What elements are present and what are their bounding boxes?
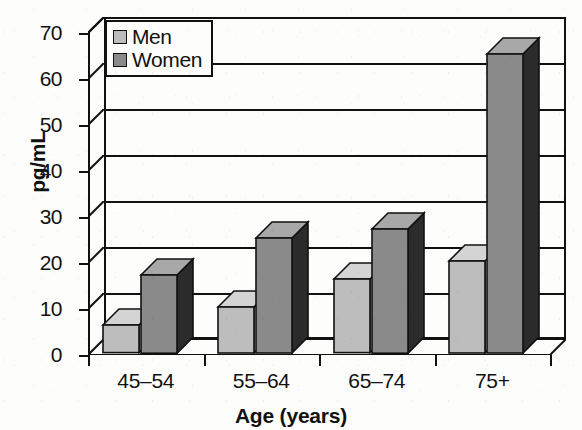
y-tick-mark (79, 171, 88, 173)
y-tick-label: 40 (18, 160, 62, 181)
bar-men (334, 265, 370, 355)
legend-label-men: Men (132, 26, 172, 47)
bar-women (487, 40, 523, 355)
y-tick-label: 10 (18, 298, 62, 319)
legend-item-men: Men (113, 25, 202, 48)
x-tick-mark (550, 355, 552, 366)
legend-swatch-men (113, 30, 127, 44)
y-tick-label: 20 (18, 252, 62, 273)
bar-women (256, 224, 292, 355)
y-tick-label: 70 (18, 22, 62, 43)
y-tick-label: 50 (18, 114, 62, 135)
y-tick-label: 0 (18, 344, 62, 365)
x-tick-mark (319, 355, 321, 366)
x-tick-label: 75+ (435, 369, 551, 393)
legend-item-women: Women (113, 48, 202, 71)
bar-men (218, 293, 254, 355)
y-tick-mark (79, 263, 88, 265)
y-tick-label: 60 (18, 68, 62, 89)
legend: Men Women (105, 20, 213, 77)
bar-men (103, 311, 139, 355)
x-tick-mark (435, 355, 437, 366)
y-tick-mark (79, 309, 88, 311)
legend-swatch-women (113, 53, 127, 67)
x-tick-mark (204, 355, 206, 366)
y-tick-label: 30 (18, 206, 62, 227)
y-tick-mark (79, 355, 88, 357)
x-axis-title: Age (years) (0, 404, 582, 428)
plot-area: Men Women (88, 17, 566, 355)
x-tick-label: 65–74 (319, 369, 435, 393)
x-tick-mark (88, 355, 90, 366)
y-tick-mark (79, 217, 88, 219)
x-tick-label: 45–54 (88, 369, 204, 393)
legend-label-women: Women (132, 49, 202, 70)
y-tick-mark (79, 33, 88, 35)
bar-chart-figure: pg/mL 010203040506070 Men (0, 0, 582, 430)
y-tick-mark (79, 79, 88, 81)
bar-men (449, 247, 485, 355)
bar-women (372, 215, 408, 355)
x-tick-label: 55–64 (204, 369, 320, 393)
bar-women (141, 261, 177, 355)
y-tick-mark (79, 125, 88, 127)
